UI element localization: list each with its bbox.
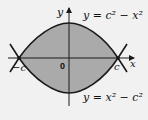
point-left-label: −c — [12, 62, 26, 73]
origin-label: 0 — [60, 61, 65, 71]
point-left — [17, 56, 21, 60]
upper-curve-label: y = c² − x² — [82, 9, 143, 22]
y-axis-label: y — [56, 6, 64, 19]
point-right-label: c — [114, 61, 120, 72]
region-diagram: y x 0 −c c y = c² − x² y = x² − c² — [0, 0, 148, 120]
diagram-canvas: y x 0 −c c y = c² − x² y = x² − c² — [0, 0, 148, 120]
point-right — [116, 56, 120, 60]
lower-curve-label: y = x² − c² — [82, 91, 143, 104]
x-axis-label: x — [130, 58, 136, 69]
